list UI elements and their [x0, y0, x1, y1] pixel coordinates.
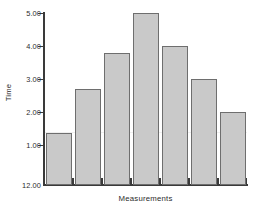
- y-axis-title: Time: [4, 71, 13, 115]
- y-tick-label: 4.00: [26, 42, 41, 51]
- bar: [220, 112, 246, 185]
- bar: [191, 79, 217, 185]
- bar: [133, 13, 159, 185]
- y-tick-label: 12.00: [22, 181, 41, 190]
- bar: [162, 46, 188, 185]
- bar: [75, 89, 101, 185]
- x-tick-mark: [245, 178, 247, 185]
- x-axis-title: Measurements: [43, 194, 248, 203]
- bar: [46, 133, 72, 185]
- bar: [104, 53, 130, 185]
- bar-chart-figure: 5.004.003.002.001.0012.00 Time Measureme…: [0, 0, 253, 209]
- y-tick-label: 2.00: [26, 108, 41, 117]
- y-axis-line: [43, 12, 45, 186]
- y-tick-label: 1.00: [26, 141, 41, 150]
- y-tick-label: 3.00: [26, 75, 41, 84]
- y-tick-label: 5.00: [26, 9, 41, 18]
- clipped-title-text: [8, 0, 248, 3]
